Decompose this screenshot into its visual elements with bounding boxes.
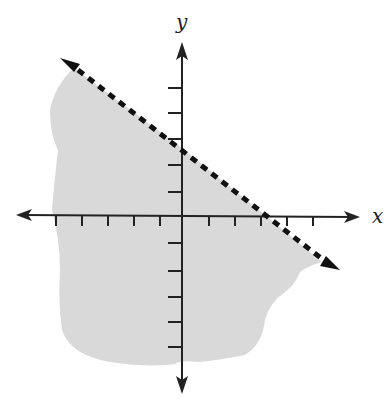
inequality-graph bbox=[0, 0, 392, 406]
x-axis-label: x bbox=[372, 204, 383, 228]
boundary-arrow-up bbox=[60, 58, 80, 72]
y-axis-label: y bbox=[176, 10, 187, 34]
boundary-arrow-down bbox=[320, 256, 340, 270]
